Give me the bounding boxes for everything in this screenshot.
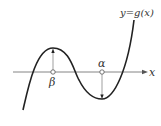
curve-g xyxy=(23,20,134,110)
x-axis-label: x xyxy=(149,66,156,79)
alpha-point xyxy=(100,70,104,74)
beta-arrow-icon xyxy=(51,49,54,54)
beta-label: β xyxy=(48,76,55,89)
x-axis-arrow-icon xyxy=(142,70,148,74)
alpha-label: α xyxy=(98,57,106,70)
curve-label: y=g(x) xyxy=(119,7,154,18)
beta-point xyxy=(51,70,55,74)
cubic-graph: x β α y=g(x) xyxy=(0,0,161,126)
diagram: x β α y=g(x) xyxy=(0,0,161,126)
